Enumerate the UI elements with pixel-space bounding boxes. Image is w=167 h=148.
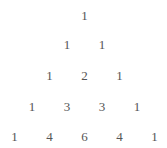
triangle-entry: 3 [92,100,112,114]
triangle-entry: 1 [22,100,42,114]
triangle-entry: 4 [110,130,130,144]
triangle-entry: 1 [5,130,25,144]
triangle-entry: 1 [57,38,77,52]
triangle-entry: 1 [145,130,165,144]
triangle-entry: 2 [75,69,95,83]
triangle-entry: 1 [75,9,95,23]
triangle-entry: 1 [127,100,147,114]
triangle-entry: 1 [110,69,130,83]
triangle-entry: 4 [40,130,60,144]
triangle-entry: 1 [40,69,60,83]
triangle-entry: 1 [92,38,112,52]
triangle-entry: 3 [57,100,77,114]
triangle-entry: 6 [75,130,95,144]
